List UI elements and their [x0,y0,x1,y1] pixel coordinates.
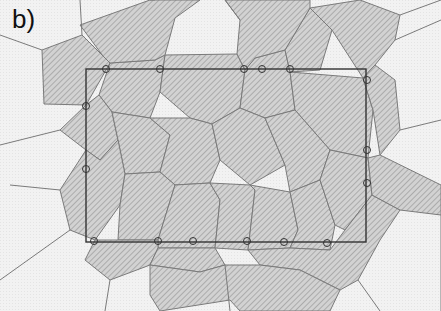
voronoi-figure [0,0,441,311]
panel-label: b) [12,4,35,34]
voronoi-diagram: b) [0,0,441,311]
